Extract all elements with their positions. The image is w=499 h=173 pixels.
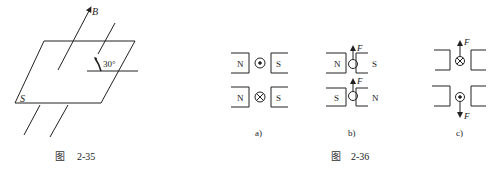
figure-2-35	[15, 9, 138, 137]
magnet-left	[432, 86, 450, 106]
caption-number-2-36: 2-36	[351, 151, 369, 162]
force-label: F	[463, 37, 470, 47]
label-b: B	[92, 6, 98, 17]
field-line-b-arrow	[58, 9, 90, 70]
force-label: F	[356, 43, 363, 53]
label-s: S	[20, 93, 25, 104]
field-line-lower-2	[50, 105, 68, 137]
pole-label: N	[334, 59, 341, 69]
magnet-left	[434, 50, 450, 70]
magnet-right	[471, 86, 486, 106]
pole-label: N	[237, 59, 244, 69]
pole-label: N	[237, 93, 244, 103]
field-line-lower-1	[24, 105, 40, 135]
pole-label: N	[372, 93, 379, 103]
pole-label: S	[276, 93, 281, 103]
caption-prefix-2-36: 图	[331, 151, 341, 162]
figure-canvas: B S 30° 图 2-35 N S N S a) N S S N F F b)	[0, 0, 499, 173]
field-line-upper	[98, 23, 115, 54]
panel-label-a: a)	[255, 128, 262, 138]
pole-label: S	[334, 93, 339, 103]
caption-number-2-35: 2-35	[77, 151, 95, 162]
pole-label: S	[372, 59, 377, 69]
magnet-right	[471, 50, 486, 70]
panel-c	[432, 43, 486, 115]
panel-label-c: c)	[456, 128, 463, 138]
plane-surface	[15, 41, 135, 103]
force-label: F	[356, 76, 363, 86]
caption-prefix-2-35: 图	[55, 151, 65, 162]
pole-label: S	[276, 59, 281, 69]
panel-label-b: b)	[348, 128, 356, 138]
label-angle: 30°	[103, 59, 116, 69]
force-label: F	[463, 111, 470, 121]
